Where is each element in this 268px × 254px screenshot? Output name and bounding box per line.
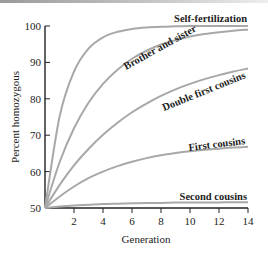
label-second-cousins: Second cousins: [180, 191, 247, 202]
curve-second-cousins: [45, 202, 248, 208]
y-tick-labels: 100 90 80 70 60 50: [25, 20, 42, 214]
x-axis: [45, 208, 248, 213]
x-tick-14: 14: [243, 215, 255, 227]
label-self-fertilization: Self-fertilization: [174, 13, 247, 24]
x-tick-labels: 2 4 6 8 10 12 14: [71, 215, 254, 227]
y-tick-80: 80: [30, 93, 42, 105]
label-first-cousins: First cousins: [188, 135, 246, 153]
x-tick-4: 4: [100, 215, 106, 227]
x-axis-title: Generation: [122, 233, 171, 245]
chart: 100 90 80 70 60 50 Percent homozygous 2 …: [0, 0, 268, 254]
y-tick-70: 70: [30, 129, 42, 141]
label-brother-sister: Brother and sister: [122, 23, 199, 72]
y-tick-60: 60: [30, 166, 42, 178]
x-tick-2: 2: [71, 215, 77, 227]
x-tick-8: 8: [158, 215, 164, 227]
y-tick-100: 100: [25, 20, 42, 32]
y-tick-50: 50: [30, 202, 42, 214]
x-tick-6: 6: [129, 215, 135, 227]
x-tick-12: 12: [214, 215, 225, 227]
y-axis-title: Percent homozygous: [9, 71, 21, 163]
y-tick-90: 90: [30, 56, 42, 68]
x-tick-10: 10: [185, 215, 197, 227]
